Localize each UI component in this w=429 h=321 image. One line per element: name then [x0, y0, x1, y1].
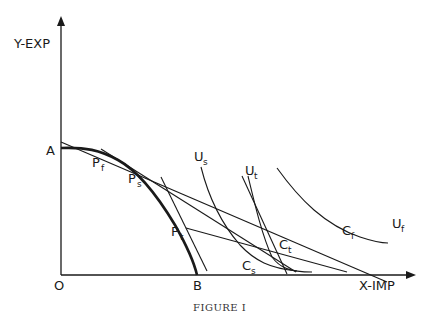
svg-text:P: P — [128, 171, 136, 186]
frontier-intercept-b-label: B — [193, 278, 202, 293]
point-pt-label: P t — [171, 224, 184, 242]
figure-caption: FIGURE I — [193, 302, 246, 313]
origin-label: O — [54, 278, 64, 293]
point-cf-label: C f — [342, 223, 355, 241]
svg-text:s: s — [251, 266, 256, 276]
svg-text:f: f — [351, 231, 355, 241]
curve-uf-label: U f — [392, 216, 405, 234]
trade-diagram-figure: Y-EXP X-IMP O A B P f P s P t U s U t — [0, 0, 429, 321]
point-pf-label: P f — [92, 155, 105, 173]
svg-text:t: t — [288, 245, 292, 255]
price-line-free-trade — [61, 142, 387, 282]
svg-text:t: t — [254, 171, 258, 181]
point-ct-label: C t — [279, 237, 292, 255]
svg-text:C: C — [279, 237, 288, 252]
curve-us-label: U s — [194, 149, 208, 167]
curve-ut-label: U t — [245, 163, 258, 181]
svg-text:s: s — [203, 157, 208, 167]
svg-text:f: f — [101, 163, 105, 173]
tangent-line-t — [161, 177, 207, 271]
svg-text:f: f — [401, 224, 405, 234]
svg-text:P: P — [171, 224, 179, 239]
svg-text:t: t — [180, 232, 184, 242]
indifference-curve-us — [201, 167, 297, 271]
y-axis — [57, 16, 65, 275]
svg-text:C: C — [342, 223, 351, 238]
x-axis-label: X-IMP — [359, 278, 395, 293]
svg-text:P: P — [92, 155, 100, 170]
indifference-curve-uf — [277, 168, 388, 243]
point-cs-label: C s — [242, 258, 256, 276]
price-line-t — [186, 228, 347, 272]
diagram-canvas: Y-EXP X-IMP O A B P f P s P t U s U t — [0, 0, 429, 321]
y-axis-label: Y-EXP — [13, 36, 50, 51]
frontier-intercept-a-label: A — [46, 143, 55, 158]
svg-text:s: s — [137, 179, 142, 189]
svg-text:C: C — [242, 258, 251, 273]
